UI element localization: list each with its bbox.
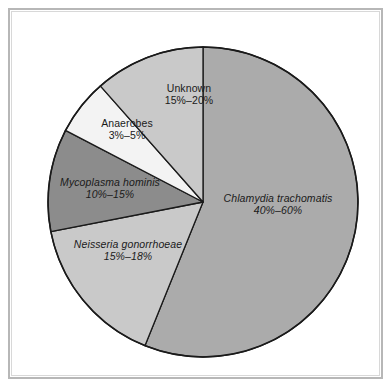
figure-container: Chlamydia trachomatis 40%–60% Neisseria … [0, 0, 391, 387]
slice-label-value: 15%–18% [63, 250, 193, 262]
slice-label-name: Mycoplasma hominis [46, 176, 174, 188]
slice-label-value: 3%–5% [79, 129, 175, 141]
pie-chart: Chlamydia trachomatis 40%–60% Neisseria … [0, 0, 391, 387]
slice-label-value: 10%–15% [46, 188, 174, 200]
slice-label-name: Anaerobes [79, 117, 175, 129]
slice-label-chlamydia-trachomatis: Chlamydia trachomatis 40%–60% [218, 192, 338, 217]
slice-label-name: Chlamydia trachomatis [218, 192, 338, 204]
slice-label-anaerobes: Anaerobes 3%–5% [79, 117, 175, 142]
slice-label-unknown: Unknown 15%–20% [141, 82, 237, 107]
slice-label-name: Neisseria gonorrhoeae [63, 238, 193, 250]
slice-label-value: 40%–60% [218, 204, 338, 216]
slice-label-neisseria-gonorrhoeae: Neisseria gonorrhoeae 15%–18% [63, 238, 193, 263]
slice-label-value: 15%–20% [141, 94, 237, 106]
slice-label-name: Unknown [141, 82, 237, 94]
slice-label-mycoplasma-hominis: Mycoplasma hominis 10%–15% [46, 176, 174, 201]
